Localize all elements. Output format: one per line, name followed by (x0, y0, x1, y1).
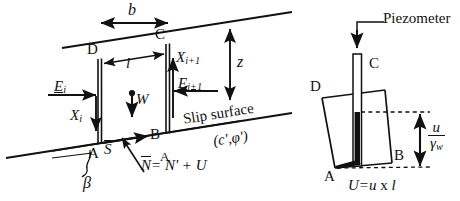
vertex-label-d-right: D (310, 79, 321, 94)
vertex-label-a-right: A (324, 169, 335, 184)
vertex-label-b-right: B (394, 148, 404, 163)
dimension-b-label: b (128, 2, 136, 18)
dimension-z-label: z (237, 54, 243, 70)
vertex-label-d-left: D (87, 42, 98, 57)
piezometer-tube (353, 54, 362, 166)
force-S-label: S (104, 142, 112, 157)
slope-angle-beta-mark (52, 150, 92, 177)
vertex-label-b-left: B (150, 127, 160, 142)
force-Ei1-label: Ei+1 (178, 76, 202, 92)
left-diagram-group (6, 12, 292, 177)
piezometer-label: Piezometer (383, 11, 450, 26)
force-Xi-label: Xi (70, 108, 82, 124)
vertex-label-c-right: C (369, 56, 379, 71)
vertex-label-a-left: A (88, 146, 99, 161)
force-N-equation-label: N= N' + U (141, 158, 207, 173)
slice-right-side (166, 44, 170, 135)
weight-force-arrow (129, 90, 135, 117)
slice-left-side (98, 59, 102, 145)
slope-angle-beta-label: β (83, 175, 91, 191)
dimension-l-label: l (126, 56, 130, 71)
vertex-label-a-overlap: A (160, 150, 169, 163)
figure-svg (0, 0, 460, 201)
resultant-force-equation-label: U=u x l (348, 178, 396, 193)
slip-surface-line (6, 113, 292, 158)
figure-root: b l z D C A B W Ei Xi Ei+1 Xi+1 S N= N' … (0, 0, 460, 201)
right-diagram-group (322, 22, 430, 169)
force-W-label: W (136, 92, 149, 107)
force-Ei-label: Ei (54, 79, 66, 95)
vertex-label-c-left: C (155, 27, 165, 42)
piezometer-leader (357, 22, 384, 48)
dimension-l-arrow (104, 54, 164, 64)
force-Xi1-label: Xi+1 (176, 50, 200, 66)
pressure-head-fraction: u γw (428, 120, 445, 153)
